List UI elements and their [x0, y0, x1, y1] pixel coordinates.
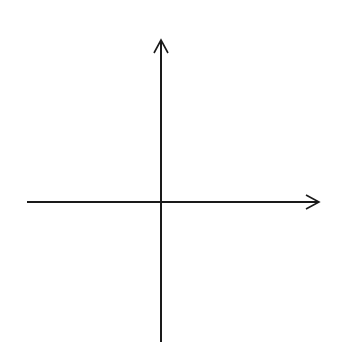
- coordinate-plane: [0, 0, 340, 359]
